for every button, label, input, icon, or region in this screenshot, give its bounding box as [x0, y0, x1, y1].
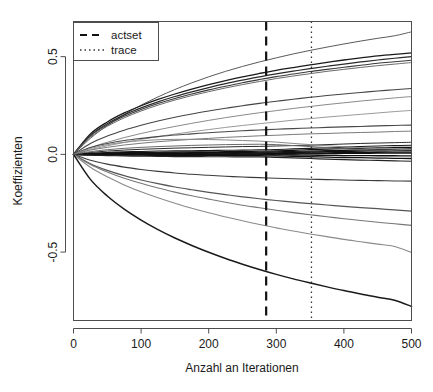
y-tick-label: 0.5 [47, 48, 61, 65]
x-tick-label: 100 [131, 337, 151, 351]
x-tick-label: 400 [334, 337, 354, 351]
plot-background [0, 0, 433, 392]
y-axis-title: Koeffizienten [11, 136, 25, 205]
legend[interactable]: actset trace [74, 23, 159, 61]
legend-label-trace: trace [111, 44, 137, 56]
x-tick-label: 500 [401, 337, 421, 351]
x-axis-title: Anzahl an Iterationen [185, 361, 298, 375]
y-tick-label: 0.0 [47, 146, 61, 163]
legend-label-actset: actset [111, 29, 142, 41]
x-tick-label: 300 [266, 337, 286, 351]
x-tick-label: 0 [70, 337, 77, 351]
chart-container: 0100200300400500 -0.50.00.5 Anzahl an It… [0, 0, 433, 392]
x-tick-label: 200 [199, 337, 219, 351]
y-tick-label: -0.5 [47, 241, 61, 262]
coefficient-paths-plot: 0100200300400500 -0.50.00.5 Anzahl an It… [0, 0, 433, 392]
